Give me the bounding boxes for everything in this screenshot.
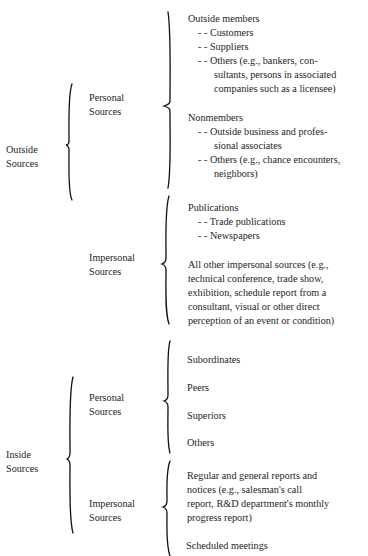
inside-reports-text: progress report) xyxy=(187,511,252,525)
scheduled-meetings: Scheduled meetings xyxy=(186,539,268,553)
inside-personal-item: Superiors xyxy=(187,409,226,423)
publications-item: - - Newspapers xyxy=(198,229,260,243)
outside-sources-brace xyxy=(66,84,76,202)
inside-personal-item: Others xyxy=(187,436,214,450)
nonmembers-heading: Nonmembers xyxy=(188,111,243,125)
outside-impersonal-brace xyxy=(162,196,172,324)
nonmembers-item: - - Outside business and profes- xyxy=(198,125,327,139)
inside-sources-label: Inside Sources xyxy=(6,448,38,476)
other-impersonal-text: technical conference, trade show, xyxy=(188,272,323,286)
inside-personal-sources-label: Personal Sources xyxy=(89,391,124,419)
outside-impersonal-sources-label: Impersonal Sources xyxy=(89,251,135,279)
publications-item: - - Trade publications xyxy=(198,215,285,229)
other-impersonal-text: exhibition, schedule report from a xyxy=(188,286,326,300)
outside-sources-label: Outside Sources xyxy=(6,143,38,171)
inside-impersonal-brace xyxy=(163,461,173,556)
inside-personal-item: Peers xyxy=(187,381,209,395)
outside-personal-brace xyxy=(163,12,173,188)
outside-members-item: - - Others (e.g., bankers, con- xyxy=(198,54,318,68)
nonmembers-item: - - Others (e.g., chance encounters, xyxy=(198,153,340,167)
outside-members-heading: Outside members xyxy=(188,12,260,26)
outside-personal-sources-label: Personal Sources xyxy=(89,91,124,119)
other-impersonal-text: perception of an event or condition) xyxy=(188,314,334,328)
other-impersonal-text: All other impersonal sources (e.g., xyxy=(188,258,329,272)
inside-reports-text: notices (e.g., salesman's call xyxy=(187,483,302,497)
outside-members-item: sultants, persons in associated xyxy=(214,68,336,82)
publications-heading: Publications xyxy=(188,201,238,215)
inside-impersonal-sources-label: Impersonal Sources xyxy=(89,497,135,525)
nonmembers-item: sional associates xyxy=(214,139,282,153)
inside-personal-item: Subordinates xyxy=(187,353,240,367)
inside-sources-brace xyxy=(67,377,77,533)
nonmembers-item: neighbors) xyxy=(214,167,258,181)
outside-members-item: - - Suppliers xyxy=(198,40,248,54)
outside-members-item: - - Customers xyxy=(198,26,253,40)
inside-personal-brace xyxy=(164,341,174,453)
outside-members-item: companies such as a licensee) xyxy=(214,82,336,96)
inside-reports-text: Regular and general reports and xyxy=(187,469,317,483)
other-impersonal-text: consultant, visual or other direct xyxy=(188,300,320,314)
inside-reports-text: report, R&D department's monthly xyxy=(187,497,329,511)
